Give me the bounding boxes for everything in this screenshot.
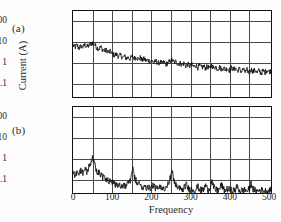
y-axis-label: Current (A) bbox=[17, 18, 28, 114]
y-tick-label: 100 bbox=[0, 117, 7, 127]
x-tick-label: 0 bbox=[58, 192, 88, 202]
y-tick-label: 10 bbox=[0, 138, 7, 148]
x-tick-label: 200 bbox=[136, 192, 166, 202]
panel-label-b: (b) bbox=[12, 124, 25, 136]
x-tick-label: 100 bbox=[97, 192, 127, 202]
figure-container: (a) (b) Current (A) Frequency 1001010.1 … bbox=[0, 0, 281, 222]
y-tick-label: 1 bbox=[2, 63, 7, 73]
data-trace-panel-a bbox=[73, 11, 271, 97]
plot-area-panel-a bbox=[72, 10, 272, 98]
x-tick-label: 300 bbox=[176, 192, 206, 202]
y-tick-label: 0.1 bbox=[0, 180, 7, 190]
x-tick-label: 500 bbox=[254, 192, 281, 202]
y-tick-label: 100 bbox=[0, 21, 7, 31]
x-tick-label: 400 bbox=[215, 192, 245, 202]
plot-area-panel-b bbox=[72, 106, 272, 194]
y-tick-label: 10 bbox=[0, 42, 7, 52]
data-trace-panel-b bbox=[73, 107, 271, 193]
y-tick-label: 0.1 bbox=[0, 84, 7, 94]
y-tick-label: 1 bbox=[2, 159, 7, 169]
x-axis-label: Frequency bbox=[72, 204, 270, 215]
